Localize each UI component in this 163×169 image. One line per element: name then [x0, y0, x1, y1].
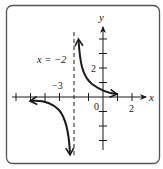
graph-figure: x −3 0 2 y 2 x = −2	[0, 0, 163, 169]
x-tick-label-neg3: −3	[52, 80, 63, 91]
graph-frame	[7, 6, 160, 164]
graph-svg: x −3 0 2 y 2 x = −2	[0, 0, 163, 169]
x-axis-label: x	[148, 91, 154, 103]
x-tick-label-2: 2	[129, 103, 134, 114]
x-tick-label-0: 0	[94, 101, 99, 112]
y-tick-label-2: 2	[91, 63, 96, 74]
asymptote-label: x = −2	[36, 54, 67, 65]
asymptote-label-text: x = −2	[36, 54, 67, 65]
y-axis-label: y	[98, 11, 104, 23]
